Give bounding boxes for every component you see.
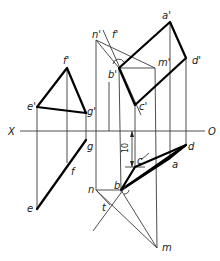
label-n: n [88, 184, 94, 195]
label-e-prime: e' [27, 101, 36, 112]
label-b-prime: b' [108, 69, 117, 80]
top-construction-lines [93, 186, 157, 248]
label-d-prime: d' [192, 55, 201, 66]
label-c-prime: c' [139, 101, 147, 112]
label-c: c [137, 155, 143, 166]
label-f-prime: f' [63, 55, 69, 66]
plane-abcd-front-view [119, 22, 186, 105]
triangle-efg-projectors [37, 68, 86, 209]
label-m-prime: m' [158, 57, 171, 68]
label-f: f [71, 166, 76, 177]
label-t: t [102, 202, 107, 213]
label-g: g [87, 141, 93, 152]
label-m: m [162, 242, 172, 253]
label-d: d [188, 141, 195, 152]
label-b: b [114, 180, 120, 191]
label-f-prime-right: f' [112, 29, 118, 40]
label-a-prime: a' [162, 10, 171, 21]
svg-text:10: 10 [121, 143, 130, 153]
axis-label-o: O [208, 126, 216, 137]
projection-diagram: X O f' e' g' e f g n' f' a' b' m' d' c' [0, 0, 220, 261]
label-a: a [172, 159, 178, 170]
label-e: e [27, 203, 33, 214]
triangle-efg-top-view [37, 140, 86, 209]
label-g-prime: g' [87, 106, 96, 117]
triangle-efg-front-view [37, 68, 86, 113]
label-n-prime: n' [92, 29, 101, 40]
axis-label-x: X [7, 126, 16, 137]
